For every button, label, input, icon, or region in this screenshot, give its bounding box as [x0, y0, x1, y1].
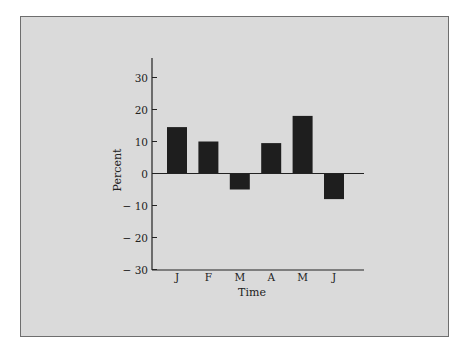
y-tick-label: − 20 — [123, 232, 149, 244]
y-tick-label: 10 — [135, 136, 148, 148]
x-tick-label: M — [297, 271, 308, 283]
bar — [198, 142, 218, 174]
x-tick-label: J — [331, 271, 336, 283]
bar — [261, 143, 281, 173]
y-tick-label: 0 — [141, 168, 148, 180]
y-tick-label: − 30 — [123, 264, 149, 276]
bar — [167, 127, 187, 173]
bar — [324, 174, 344, 200]
x-axis-labels: JFMAMJ — [174, 271, 336, 283]
y-tick-label: 20 — [135, 104, 148, 116]
x-tick-label: J — [174, 271, 179, 283]
bars — [167, 116, 344, 199]
x-tick-label: F — [205, 271, 212, 283]
x-tick-label: M — [234, 271, 245, 283]
y-axis-title: Percent — [111, 148, 124, 191]
bar — [293, 116, 313, 174]
bar-chart: 3020100− 10− 20− 30 JFMAMJ Time Percent — [0, 0, 463, 354]
x-axis-title: Time — [238, 286, 266, 299]
y-tick-label: 30 — [135, 72, 148, 84]
y-tick-label: − 10 — [123, 200, 149, 212]
bar — [230, 174, 250, 190]
x-tick-label: A — [266, 271, 275, 283]
